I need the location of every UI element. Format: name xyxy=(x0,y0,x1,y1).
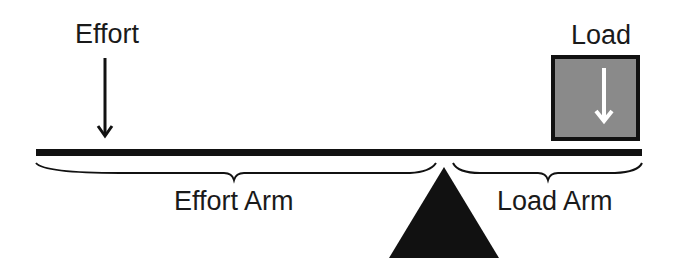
load-arm-label: Load Arm xyxy=(497,186,613,216)
lever-diagram: Effort Load Effort Arm Load Arm xyxy=(0,0,674,267)
effort-label: Effort xyxy=(75,19,140,49)
effort-arm-label: Effort Arm xyxy=(174,186,294,216)
load-box xyxy=(553,57,638,139)
load-label: Load xyxy=(571,20,631,50)
load-arm-brace xyxy=(453,163,642,180)
fulcrum-triangle xyxy=(389,167,499,258)
effort-arm-brace xyxy=(36,163,436,180)
effort-arrow-icon xyxy=(98,58,112,136)
lever-beam xyxy=(36,149,642,156)
